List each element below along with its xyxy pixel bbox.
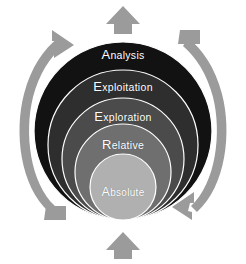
left-curved-arrow-tail — [44, 206, 66, 220]
top-up-arrow — [106, 6, 140, 34]
bottom-up-arrow-shape — [106, 232, 140, 259]
layer-circle-absolute — [90, 154, 156, 220]
onion-diagram: Analysis Exploitation Exploration Relati… — [0, 0, 246, 264]
bottom-up-arrow — [106, 232, 140, 259]
onion-diagram-graphic — [0, 0, 246, 264]
onion-layers — [34, 42, 212, 220]
top-up-arrow-shape — [106, 6, 140, 34]
right-curved-arrow-tail — [178, 30, 200, 44]
